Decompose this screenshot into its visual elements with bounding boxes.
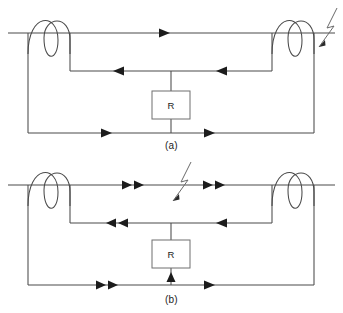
top-line-left-arrow-1-b: [122, 181, 132, 190]
top-line-right-arrow-2-b: [215, 181, 225, 190]
middle-line-right-arrow-b: [216, 219, 227, 228]
caption-a: (a): [0, 140, 343, 151]
bottom-line-right-arrow-b: [204, 281, 215, 290]
resistor-label-b: R: [168, 249, 175, 260]
middle-line-right-arrow-a: [216, 67, 227, 76]
top-line-arrow-a: [159, 29, 170, 38]
left-coil-b: [28, 172, 70, 285]
top-line-left-arrow-2-b: [134, 181, 144, 190]
caption-b: (b): [0, 294, 343, 305]
right-coil-b: [272, 172, 314, 285]
circuit-figure: R (a): [0, 0, 343, 313]
middle-line-left-arrow-a: [113, 67, 124, 76]
bottom-line-left-arrow-a: [101, 129, 112, 138]
resistor-label-a: R: [168, 100, 175, 111]
top-line-right-arrow-1-b: [203, 181, 213, 190]
lightning-surge-arrow-b: [173, 162, 191, 201]
diagram-a: R: [0, 0, 343, 140]
bottom-line-left-arrow-2-b: [108, 281, 118, 290]
bottom-line-right-arrow-a: [204, 129, 215, 138]
left-coil-a: [28, 20, 70, 133]
middle-line-left-arrow-2-b: [118, 219, 128, 228]
middle-line-left-arrow-1-b: [106, 219, 116, 228]
right-coil-a: [272, 20, 314, 133]
lightning-surge-arrow-a: [319, 8, 337, 47]
resistor-lead-up-arrow-b: [167, 272, 176, 282]
bottom-line-left-arrow-1-b: [96, 281, 106, 290]
diagram-b: R: [0, 152, 343, 294]
